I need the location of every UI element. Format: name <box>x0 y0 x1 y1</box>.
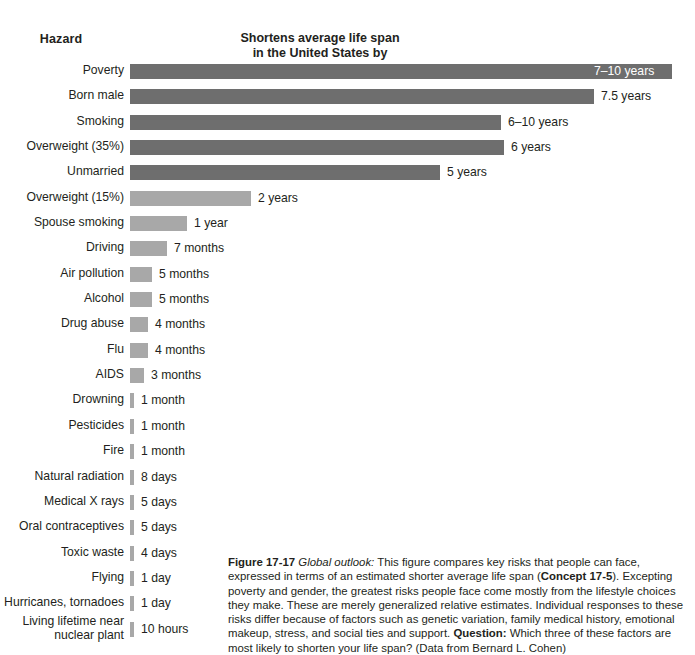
chart-row: Poverty7–10 years <box>0 63 695 88</box>
chart-row: Drug abuse4 months <box>0 316 695 341</box>
column-header-hazard: Hazard <box>0 32 122 46</box>
column-header-lifespan: Shortens average life span in the United… <box>175 31 465 60</box>
hazard-bar <box>130 419 134 434</box>
hazard-label: Pesticides <box>0 418 124 433</box>
hazard-value-label: 1 month <box>141 418 185 434</box>
hazard-label: Flu <box>0 342 124 357</box>
hazard-value-label: 2 years <box>258 190 298 206</box>
hazard-label: Toxic waste <box>0 545 124 560</box>
hazard-bar <box>130 393 134 408</box>
hazard-label: Fire <box>0 443 124 458</box>
hazard-value-label: 6–10 years <box>508 114 568 130</box>
hazard-bar <box>130 140 504 155</box>
hazard-bar <box>130 267 152 282</box>
caption-concept-ref: Concept 17-5 <box>541 570 613 582</box>
hazard-label: Air pollution <box>0 266 124 281</box>
hazard-value-label: 7–10 years <box>594 63 654 79</box>
hazard-value-label: 5 days <box>141 519 177 535</box>
hazard-bar <box>130 546 134 561</box>
hazard-label: Oral contraceptives <box>0 519 124 534</box>
hazard-value-label: 5 days <box>141 494 177 510</box>
hazard-bar <box>130 343 148 358</box>
chart-row: Fire1 month <box>0 443 695 468</box>
hazard-label: Living lifetime near nuclear plant <box>0 614 124 642</box>
hazard-label: Flying <box>0 570 124 585</box>
hazard-value-label: 4 months <box>155 342 205 358</box>
hazard-value-label: 1 month <box>141 443 185 459</box>
hazard-label: Born male <box>0 88 124 103</box>
hazard-bar <box>130 596 134 611</box>
hazard-value-label: 7 months <box>174 240 224 256</box>
hazard-value-label: 5 years <box>447 164 487 180</box>
caption-lead-italic: Global outlook: <box>298 556 374 568</box>
hazard-bar <box>130 368 144 383</box>
caption-figure-number: Figure 17-17 <box>228 556 295 568</box>
column-header-lifespan-line1: Shortens average life span <box>175 31 465 46</box>
hazard-value-label: 5 months <box>159 266 209 282</box>
hazard-bar <box>130 64 672 79</box>
hazard-value-label: 4 days <box>141 545 177 561</box>
hazard-value-label: 4 months <box>155 316 205 332</box>
column-header-lifespan-line2: in the United States by <box>175 46 465 61</box>
hazard-value-label: 7.5 years <box>601 88 651 104</box>
hazard-bar <box>130 495 134 510</box>
hazard-label: Overweight (15%) <box>0 190 124 205</box>
hazard-bar <box>130 115 501 130</box>
chart-row: Natural radiation8 days <box>0 469 695 494</box>
hazard-label: Smoking <box>0 114 124 129</box>
caption-question-label: Question: <box>453 627 506 639</box>
hazard-bar <box>130 216 187 231</box>
chart-row: Flu4 months <box>0 342 695 367</box>
hazard-bar <box>130 520 134 535</box>
hazard-value-label: 3 months <box>151 367 201 383</box>
figure-caption: Figure 17-17 Global outlook: This figure… <box>228 555 687 655</box>
hazard-value-label: 1 month <box>141 392 185 408</box>
hazard-bar <box>130 571 134 586</box>
hazard-label: Natural radiation <box>0 469 124 484</box>
hazard-bar <box>130 241 167 256</box>
hazard-label: Hurricanes, tornadoes <box>0 595 124 610</box>
hazard-bar <box>130 622 134 637</box>
chart-row: Drowning1 month <box>0 392 695 417</box>
hazard-value-label: 1 day <box>141 570 171 586</box>
hazard-value-label: 1 day <box>141 595 171 611</box>
chart-row: Medical X rays5 days <box>0 494 695 519</box>
hazard-label: Drug abuse <box>0 316 124 331</box>
chart-row: Overweight (35%)6 years <box>0 139 695 164</box>
hazard-label: Poverty <box>0 63 124 78</box>
hazard-label: Alcohol <box>0 291 124 306</box>
hazard-bar <box>130 470 134 485</box>
hazard-label: Driving <box>0 240 124 255</box>
chart-row: Smoking6–10 years <box>0 114 695 139</box>
hazard-label: Unmarried <box>0 164 124 179</box>
chart-row: Air pollution5 months <box>0 266 695 291</box>
hazard-label: Medical X rays <box>0 494 124 509</box>
hazard-value-label: 6 years <box>511 139 551 155</box>
chart-row: Spouse smoking1 year <box>0 215 695 240</box>
hazard-bar <box>130 444 134 459</box>
chart-row: Oral contraceptives5 days <box>0 519 695 544</box>
hazard-bar <box>130 89 594 104</box>
hazard-value-label: 10 hours <box>141 621 188 637</box>
hazard-value-label: 1 year <box>194 215 228 231</box>
hazard-bar <box>130 292 152 307</box>
hazard-bar <box>130 317 148 332</box>
chart-row: Driving7 months <box>0 240 695 265</box>
chart-row: Unmarried5 years <box>0 164 695 189</box>
chart-row: Overweight (15%)2 years <box>0 190 695 215</box>
hazard-value-label: 5 months <box>159 291 209 307</box>
chart-row: Pesticides1 month <box>0 418 695 443</box>
hazard-label: AIDS <box>0 367 124 382</box>
hazard-label: Overweight (35%) <box>0 139 124 154</box>
hazard-bar <box>130 191 251 206</box>
hazard-label: Drowning <box>0 392 124 407</box>
hazard-bar <box>130 165 440 180</box>
chart-row: AIDS3 months <box>0 367 695 392</box>
hazard-value-label: 8 days <box>141 469 177 485</box>
chart-row: Alcohol5 months <box>0 291 695 316</box>
hazard-label: Spouse smoking <box>0 215 124 230</box>
chart-row: Born male7.5 years <box>0 88 695 113</box>
